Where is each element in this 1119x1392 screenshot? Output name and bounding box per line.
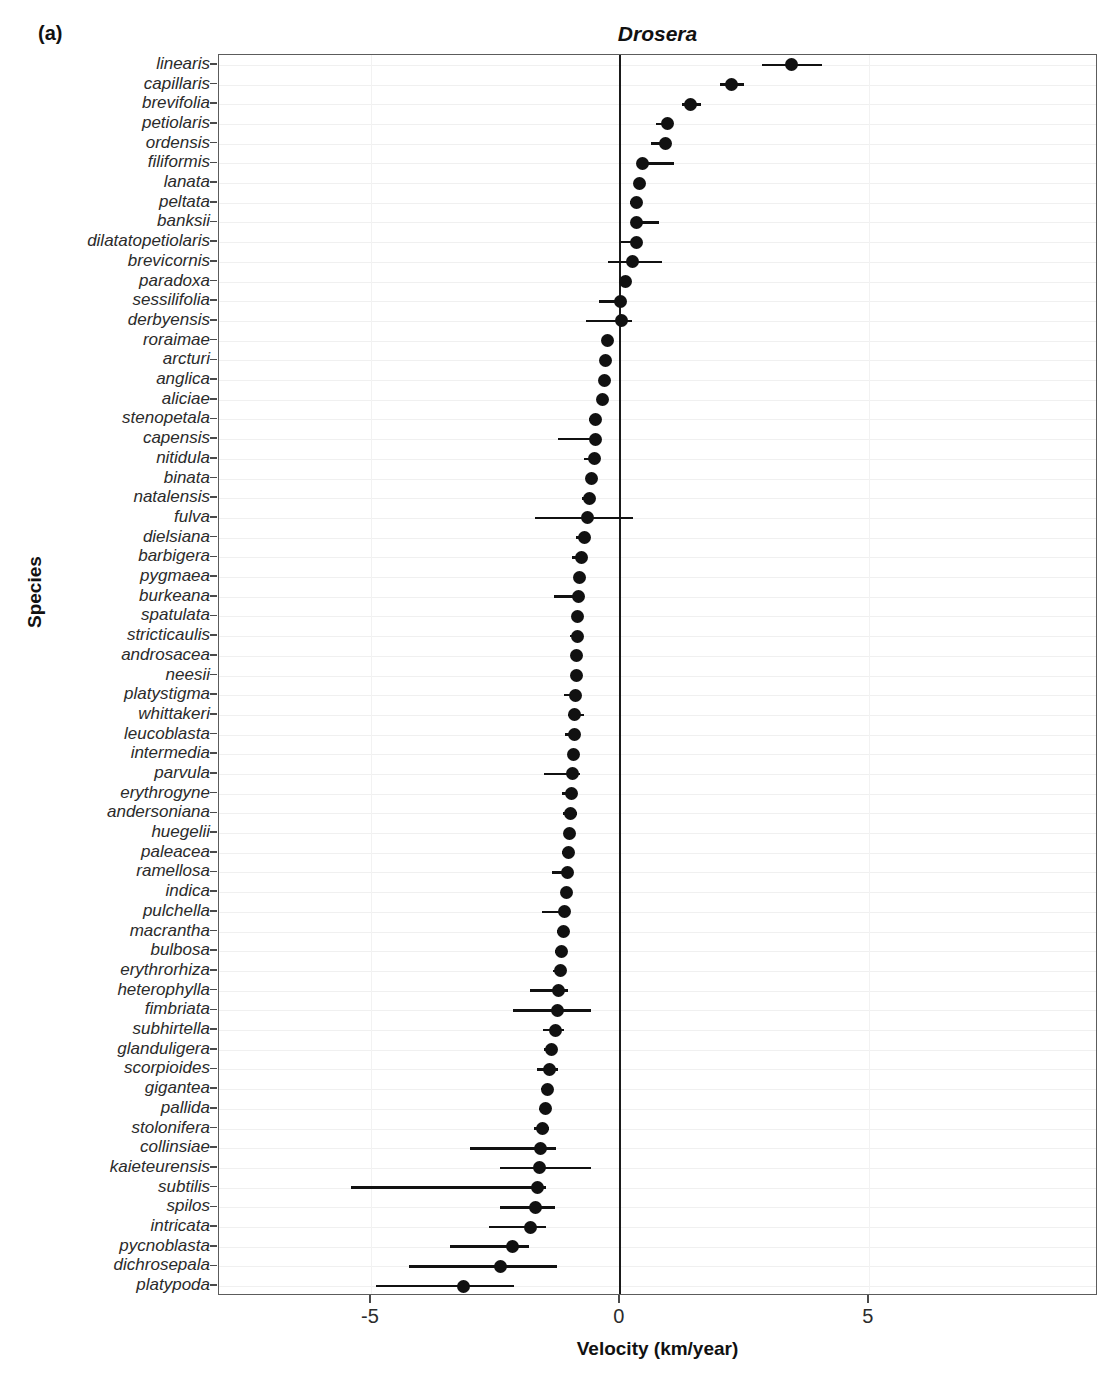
gridline-row	[219, 203, 1096, 204]
y-tick-mark	[210, 674, 217, 676]
y-tick-label: andersoniana	[107, 803, 210, 820]
y-tick-mark	[210, 240, 217, 242]
y-tick-label: fimbriata	[145, 1000, 210, 1017]
y-tick-label: dielsiana	[143, 528, 210, 545]
panel-label: (a)	[38, 22, 62, 45]
data-point	[568, 728, 581, 741]
y-tick-label: dichrosepala	[114, 1256, 210, 1273]
y-tick-mark	[210, 162, 217, 164]
data-point	[578, 531, 591, 544]
y-tick-mark	[210, 792, 217, 794]
y-tick-label: pallida	[161, 1099, 210, 1116]
gridline-row	[219, 498, 1096, 499]
x-axis-ticks: -505	[218, 1295, 1097, 1335]
data-point	[552, 984, 565, 997]
y-tick-label: paleacea	[141, 843, 210, 860]
y-tick-mark	[210, 83, 217, 85]
gridline-row	[219, 794, 1096, 795]
y-tick-label: anglica	[156, 370, 210, 387]
y-tick-mark	[210, 713, 217, 715]
data-point	[575, 551, 588, 564]
y-tick-label: pycnoblasta	[119, 1237, 210, 1254]
x-tick-mark	[867, 1295, 869, 1303]
gridline-row	[219, 479, 1096, 480]
y-tick-label: lanata	[164, 173, 210, 190]
y-tick-label: leucoblasta	[124, 725, 210, 742]
y-tick-label: banksii	[157, 212, 210, 229]
data-point	[554, 964, 567, 977]
data-point	[564, 807, 577, 820]
gridline-row	[219, 833, 1096, 834]
y-tick-label: stolonifera	[132, 1119, 210, 1136]
x-tick-label: -5	[361, 1305, 379, 1328]
gridline-row	[219, 1050, 1096, 1051]
y-tick-label: parvula	[154, 764, 210, 781]
y-tick-mark	[210, 201, 217, 203]
gridline-row	[219, 1109, 1096, 1110]
y-tick-mark	[210, 1265, 217, 1267]
error-bar	[409, 1265, 557, 1268]
y-tick-label: intricata	[150, 1217, 210, 1234]
data-point	[549, 1024, 562, 1037]
data-point	[581, 511, 594, 524]
gridline-row	[219, 951, 1096, 952]
y-tick-mark	[210, 221, 217, 223]
y-tick-mark	[210, 634, 217, 636]
y-tick-mark	[210, 142, 217, 144]
y-tick-mark	[210, 969, 217, 971]
y-tick-mark	[210, 319, 217, 321]
y-tick-label: aliciae	[162, 390, 210, 407]
y-tick-mark	[210, 1206, 217, 1208]
data-point	[785, 58, 798, 71]
gridline-row	[219, 380, 1096, 381]
gridline-row	[219, 419, 1096, 420]
y-tick-mark	[210, 1127, 217, 1129]
data-point	[568, 708, 581, 721]
data-point	[630, 236, 643, 249]
gridline-row	[219, 439, 1096, 440]
data-point	[589, 433, 602, 446]
x-tick-label: 0	[613, 1305, 624, 1328]
data-point	[583, 492, 596, 505]
data-point	[539, 1102, 552, 1115]
y-tick-label: filiformis	[148, 153, 210, 170]
y-tick-label: intermedia	[131, 744, 210, 761]
y-axis-tick-labels: lineariscapillarisbrevifoliapetiolarisor…	[50, 54, 210, 1295]
y-tick-label: sessilifolia	[133, 291, 210, 308]
data-point	[659, 137, 672, 150]
data-point	[561, 866, 574, 879]
data-point	[529, 1201, 542, 1214]
y-tick-label: paradoxa	[139, 272, 210, 289]
x-tick-mark	[618, 1295, 620, 1303]
y-tick-mark	[210, 63, 217, 65]
y-tick-mark	[210, 556, 217, 558]
y-tick-mark	[210, 457, 217, 459]
y-tick-label: brevifolia	[142, 94, 210, 111]
y-tick-label: gigantea	[145, 1079, 210, 1096]
gridline-row	[219, 1148, 1096, 1149]
data-point	[541, 1083, 554, 1096]
data-point	[589, 413, 602, 426]
gridline-row	[219, 636, 1096, 637]
data-point	[565, 787, 578, 800]
y-tick-label: dilatatopetiolaris	[87, 232, 210, 249]
y-tick-mark	[210, 260, 217, 262]
y-tick-mark	[210, 890, 217, 892]
gridline-row	[219, 400, 1096, 401]
data-point	[684, 98, 697, 111]
data-point	[457, 1280, 470, 1293]
data-point	[615, 314, 628, 327]
gridline-row	[219, 85, 1096, 86]
y-tick-mark	[210, 1068, 217, 1070]
gridline-row	[219, 715, 1096, 716]
y-tick-label: bulbosa	[150, 941, 210, 958]
y-tick-mark	[210, 536, 217, 538]
facet-title: Drosera	[218, 22, 1097, 46]
y-tick-mark	[210, 516, 217, 518]
y-tick-mark	[210, 910, 217, 912]
y-tick-mark	[210, 339, 217, 341]
y-tick-label: indica	[166, 882, 210, 899]
y-tick-mark	[210, 122, 217, 124]
gridline-row	[219, 971, 1096, 972]
y-tick-mark	[210, 378, 217, 380]
